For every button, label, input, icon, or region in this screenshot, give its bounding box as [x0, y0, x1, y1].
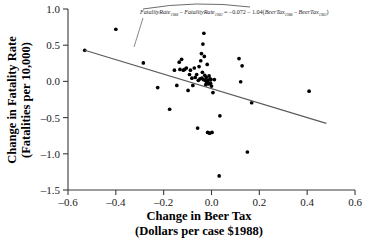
- data-point: [307, 89, 311, 93]
- y-axis-subtitle: (Fatalities per 10,000): [19, 42, 33, 158]
- data-point: [199, 59, 203, 63]
- y-tick-label: –1.5: [40, 184, 61, 196]
- data-point: [190, 76, 194, 80]
- x-tick-label: 0.6: [348, 196, 362, 208]
- x-tick-label: –0.4: [105, 196, 126, 208]
- data-point: [175, 84, 179, 88]
- y-axis-ticks: 1.00.50.0–0.5–1.0–1.5: [40, 3, 68, 196]
- data-point: [210, 131, 214, 135]
- x-axis-subtitle: (Dollars per case $1988): [135, 224, 263, 238]
- data-point: [185, 66, 189, 70]
- data-point: [191, 84, 195, 88]
- data-point: [114, 27, 118, 31]
- x-axis-title: Change in Beer Tax: [147, 209, 253, 223]
- regression-line-group: [85, 50, 327, 123]
- data-point: [201, 71, 205, 75]
- data-point: [205, 63, 209, 67]
- data-point: [177, 60, 181, 64]
- y-tick-label: –0.5: [40, 112, 61, 124]
- data-point: [239, 80, 243, 84]
- y-tick-label: –1.0: [40, 148, 61, 160]
- data-point: [240, 64, 244, 68]
- data-point: [237, 57, 241, 61]
- data-point: [210, 84, 214, 88]
- y-tick-label: 1.0: [46, 3, 60, 15]
- data-point: [141, 61, 145, 65]
- scatter-plot-figure: –0.6–0.4–0.20.00.20.40.6 1.00.50.0–0.5–1…: [0, 0, 369, 244]
- data-point: [246, 150, 250, 154]
- data-point: [213, 78, 217, 82]
- data-point: [186, 89, 190, 93]
- data-point: [217, 174, 221, 178]
- data-point: [168, 107, 172, 111]
- data-point: [195, 73, 199, 77]
- data-point: [173, 68, 177, 72]
- data-point: [196, 126, 200, 130]
- annotation-leader-line: [134, 18, 143, 47]
- x-tick-label: –0.2: [153, 196, 173, 208]
- x-tick-label: 0.0: [205, 196, 219, 208]
- data-point: [202, 55, 206, 59]
- data-point: [218, 114, 222, 118]
- x-tick-label: –0.6: [57, 196, 78, 208]
- regression-equation-annotation: FatalityRate1988 – FatalityRate1982 = –0…: [139, 9, 329, 17]
- y-tick-label: 0.0: [46, 75, 60, 87]
- data-points-group: [83, 27, 311, 177]
- data-point: [197, 65, 201, 69]
- data-point: [156, 86, 160, 90]
- data-point: [211, 91, 215, 95]
- x-tick-label: 0.2: [252, 196, 266, 208]
- x-axis-label-group: Change in Beer Tax (Dollars per case $19…: [135, 209, 263, 238]
- data-point: [209, 78, 213, 82]
- x-axis-ticks: –0.6–0.4–0.20.00.20.40.6: [57, 190, 362, 208]
- data-point: [200, 52, 204, 56]
- y-tick-label: 0.5: [46, 39, 60, 51]
- data-point: [202, 31, 206, 35]
- axes-group: [68, 9, 355, 190]
- regression-equation-text: FatalityRate1988 – FatalityRate1982 = –0…: [139, 9, 329, 17]
- data-point: [201, 42, 205, 46]
- x-tick-label: 0.4: [300, 196, 314, 208]
- y-axis-title: Change in Fatality Rate: [5, 36, 19, 164]
- data-point: [178, 68, 182, 72]
- chart-canvas: –0.6–0.4–0.20.00.20.40.6 1.00.50.0–0.5–1…: [0, 0, 369, 244]
- regression-line: [85, 50, 327, 123]
- data-point: [192, 66, 196, 70]
- data-point: [189, 68, 193, 72]
- y-axis-label-group: Change in Fatality Rate (Fatalities per …: [5, 36, 33, 164]
- data-point: [180, 57, 184, 61]
- data-point: [188, 73, 192, 77]
